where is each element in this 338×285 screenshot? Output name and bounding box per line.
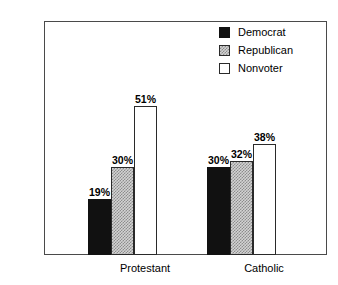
legend-item-republican: Republican <box>219 41 293 59</box>
legend-label: Republican <box>238 44 293 56</box>
bar-catholic-republican: 32% <box>230 161 253 255</box>
bar-chart: 80% 70% 60% 50% 40% 30% 20% 10% 0% 19% 3… <box>0 0 338 285</box>
bar-value-label: 30% <box>208 155 229 166</box>
bar-value-label: 38% <box>254 132 275 143</box>
bar-value-label: 51% <box>135 94 156 105</box>
legend-item-democrat: Democrat <box>219 23 293 41</box>
legend-swatch-icon <box>219 27 230 38</box>
legend-swatch-icon <box>219 45 230 56</box>
bar-protestant-nonvoter: 51% <box>134 106 157 255</box>
legend-item-nonvoter: Nonvoter <box>219 59 293 77</box>
legend-label: Nonvoter <box>238 62 283 74</box>
y-axis: 80% 70% 60% 50% 40% 30% 20% 10% 0% <box>0 0 44 285</box>
chart-legend: Democrat Republican Nonvoter <box>219 23 293 77</box>
bar-value-label: 32% <box>231 149 252 160</box>
bar-protestant-democrat: 19% <box>88 199 111 255</box>
bar-value-label: 19% <box>89 187 110 198</box>
legend-swatch-icon <box>219 63 230 74</box>
x-category-label-catholic: Catholic <box>244 262 284 274</box>
bar-catholic-nonvoter: 38% <box>253 144 276 255</box>
bar-protestant-republican: 30% <box>111 167 134 255</box>
x-category-label-protestant: Protestant <box>120 262 170 274</box>
legend-label: Democrat <box>238 26 286 38</box>
bar-catholic-democrat: 30% <box>207 167 230 255</box>
bar-value-label: 30% <box>112 155 133 166</box>
